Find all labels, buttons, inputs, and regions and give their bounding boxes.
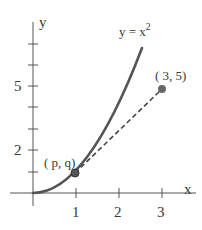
x-tick-label-1: 1: [72, 204, 80, 220]
curve-label-base: y = x: [119, 24, 146, 39]
external-point-label: ( 3, 5): [155, 68, 186, 83]
parabola-curve: [33, 48, 142, 193]
curve-label-exponent: 2: [146, 21, 151, 32]
y-axis-label: y: [39, 14, 47, 30]
y-tick-label-2: 2: [14, 142, 22, 158]
tangent-point-marker: [71, 169, 79, 177]
x-tick-label-2: 2: [114, 204, 122, 220]
tangent-point-label: ( p, q): [44, 155, 75, 170]
external-point-marker: [158, 85, 166, 93]
diagram-canvas: y x 5 2 1 2 3 ( p, q) ( 3, 5) y = x2: [0, 0, 202, 230]
x-tick-label-3: 3: [157, 204, 165, 220]
y-tick-label-5: 5: [14, 78, 22, 94]
x-axis-label: x: [184, 181, 192, 197]
curve-label: y = x2: [119, 21, 151, 39]
parabola-tangent-diagram: y x 5 2 1 2 3 ( p, q) ( 3, 5) y = x2: [0, 0, 202, 230]
